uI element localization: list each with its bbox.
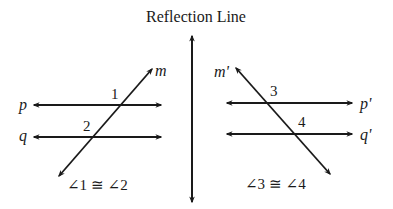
label-q: q xyxy=(19,128,27,144)
statement-angle-3-congruent-4: ∠3 ≅ ∠4 xyxy=(245,177,306,192)
label-p: p xyxy=(19,97,27,113)
reflection-line-title: Reflection Line xyxy=(146,9,246,25)
angle-label-2: 2 xyxy=(83,119,91,134)
statement-angle-1-congruent-2: ∠1 ≅ ∠2 xyxy=(67,178,128,193)
label-p-prime: p' xyxy=(360,96,371,112)
label-q-prime: q' xyxy=(360,127,371,143)
angle-label-3: 3 xyxy=(270,84,278,99)
diagram-lines xyxy=(0,0,393,209)
transversal-m xyxy=(59,69,152,176)
transversal-m-prime xyxy=(236,68,330,174)
angle-label-4: 4 xyxy=(298,115,306,130)
angle-label-1: 1 xyxy=(111,87,119,102)
label-m: m xyxy=(155,63,167,79)
diagram-canvas: Reflection Line p q m 1 2 ∠1 ≅ ∠2 m' 3 4… xyxy=(0,0,393,209)
label-m-prime: m' xyxy=(214,64,229,80)
